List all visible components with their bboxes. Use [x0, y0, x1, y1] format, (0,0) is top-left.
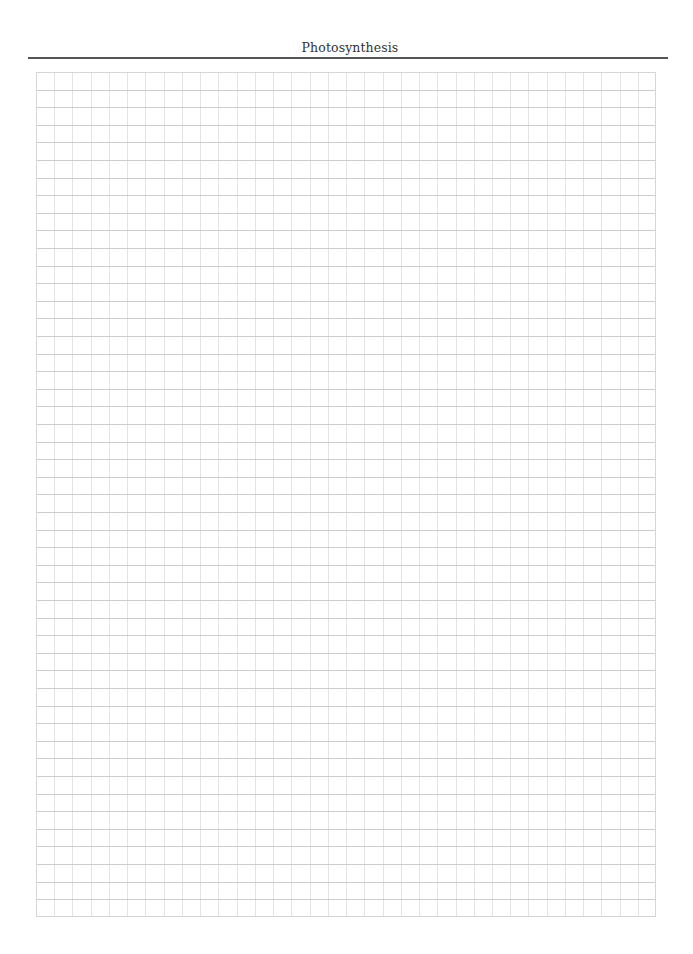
- header-divider: [28, 57, 668, 59]
- page-title: Photosynthesis: [0, 40, 693, 56]
- graph-paper-grid: [36, 72, 656, 917]
